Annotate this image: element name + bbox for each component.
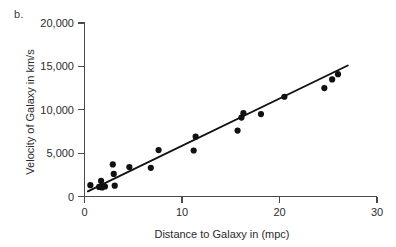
data-point <box>111 171 117 177</box>
x-axis-ticks <box>85 197 378 204</box>
x-tick-labels: 0 10 20 30 <box>81 206 383 218</box>
y-tick-label-0: 0 <box>68 191 74 203</box>
x-tick-label-10: 10 <box>176 206 188 218</box>
data-point <box>87 182 93 188</box>
data-point <box>126 164 132 170</box>
x-axis-title: Distance to Galaxy in (mpc) <box>154 228 289 240</box>
y-tick-label-20000: 20,000 <box>40 17 74 29</box>
data-point <box>191 147 197 153</box>
data-point <box>258 111 264 117</box>
data-point <box>193 134 199 140</box>
y-axis-title: Velocity of Galaxy in km/s <box>24 49 36 175</box>
data-point <box>102 183 108 189</box>
data-point <box>112 183 118 189</box>
data-point <box>156 147 162 153</box>
data-point <box>335 71 341 77</box>
scatter-chart: 0 5,000 10,000 15,000 20,000 0 10 20 30 … <box>0 0 396 247</box>
data-point <box>98 178 104 184</box>
data-point <box>321 85 327 91</box>
data-point <box>110 161 116 167</box>
figure-panel: b. 0 5,000 10,000 15,000 20,000 <box>0 0 396 247</box>
regression-trendline <box>88 66 348 192</box>
x-tick-label-20: 20 <box>273 206 285 218</box>
data-point <box>148 165 154 171</box>
y-tick-label-15000: 15,000 <box>40 60 74 72</box>
data-point <box>281 94 287 100</box>
y-tick-labels: 0 5,000 10,000 15,000 20,000 <box>40 17 74 203</box>
x-tick-label-0: 0 <box>81 206 87 218</box>
data-point <box>240 110 246 116</box>
data-point <box>234 127 240 133</box>
y-axis-ticks <box>78 23 85 197</box>
data-point <box>329 76 335 82</box>
y-tick-label-10000: 10,000 <box>40 104 74 116</box>
y-tick-label-5000: 5,000 <box>46 147 74 159</box>
x-tick-label-30: 30 <box>371 206 383 218</box>
